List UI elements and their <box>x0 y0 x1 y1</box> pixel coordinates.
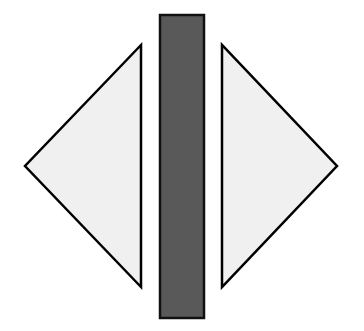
center-vertical-bar <box>160 15 204 318</box>
left-pointing-triangle <box>25 45 141 287</box>
diagram-canvas <box>0 0 364 331</box>
right-pointing-triangle <box>222 45 337 287</box>
